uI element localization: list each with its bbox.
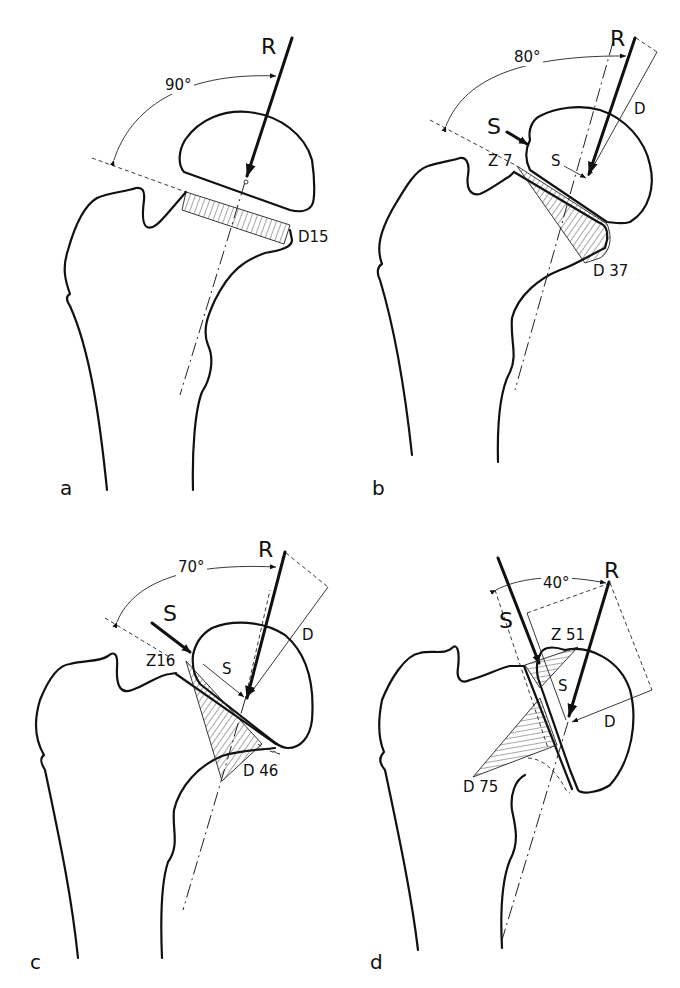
label-force-r-d: R	[604, 558, 619, 583]
label-force-r-c: R	[258, 537, 273, 562]
label-force-r-a: R	[261, 34, 276, 59]
panel-d	[379, 558, 652, 950]
compression-zone-a	[182, 192, 290, 244]
label-lever-d-b: D	[634, 100, 646, 118]
label-tension-c: Z16	[146, 652, 175, 670]
label-compression-c: D 46	[243, 762, 278, 780]
panel-label-d: d	[370, 950, 383, 974]
femur-medial-d	[501, 775, 525, 948]
label-lever-d-d: D	[604, 713, 616, 731]
label-tension-d: Z 51	[551, 626, 585, 644]
label-force-s-d: S	[499, 608, 513, 633]
panel-label-a: a	[60, 476, 72, 500]
force-r-arrow-b	[589, 38, 635, 174]
lever-ext-c	[286, 553, 328, 587]
femur-outline-c	[36, 653, 176, 958]
femur-medial-a	[193, 230, 292, 490]
label-angle-c: 70°	[176, 558, 207, 576]
label-compression-a: D15	[298, 228, 329, 246]
label-angle-d: 40°	[541, 574, 572, 592]
lever-ext-b	[636, 38, 657, 52]
force-s-arrow-c	[152, 623, 190, 652]
label-tension-b: Z 7	[488, 152, 513, 170]
tension-zone-d	[525, 647, 578, 688]
dashed-contour-d	[528, 758, 570, 793]
panel-label-b: b	[372, 476, 385, 500]
panel-c	[36, 552, 328, 958]
label-force-s-c: S	[163, 601, 177, 626]
force-s-arrow-b	[507, 132, 527, 144]
label-lever-d-c: D	[302, 626, 314, 644]
label-lever-s-b: S	[551, 152, 561, 170]
angle-arc-a	[114, 76, 276, 160]
center-point-a	[244, 180, 248, 184]
label-angle-b: 80°	[512, 48, 543, 66]
label-force-r-b: R	[610, 26, 625, 51]
lever-ext-d	[610, 583, 652, 690]
force-r-arrow-c	[247, 552, 285, 698]
label-force-s-b: S	[487, 114, 501, 139]
panel-b	[378, 38, 657, 462]
femur-outline-b	[378, 158, 514, 455]
label-compression-b: D 37	[593, 262, 628, 280]
panel-a	[65, 38, 315, 490]
femur-outline-a	[65, 188, 186, 490]
label-angle-a: 90°	[163, 76, 194, 94]
label-lever-s-c: S	[222, 660, 232, 678]
label-compression-d: D 75	[463, 778, 498, 796]
figure-canvas	[0, 0, 680, 988]
panel-label-c: c	[30, 950, 41, 974]
label-lever-s-d: S	[558, 677, 568, 695]
